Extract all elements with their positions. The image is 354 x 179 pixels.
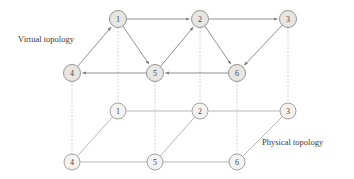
virtual-edge-v1-v5 (123, 26, 149, 64)
node-label-p1: 1 (116, 107, 120, 116)
virtual-edge-v4-v1 (78, 27, 112, 66)
topology-canvas: 123456 123456 Virtual topology Physical … (0, 0, 354, 179)
node-label-p6: 6 (235, 158, 239, 167)
virtual-node-group: 123456 (64, 11, 297, 82)
node-label-v5: 5 (153, 69, 157, 78)
virtual-edge-v5-v2 (160, 27, 193, 66)
node-label-p3: 3 (286, 107, 290, 116)
layer-link-group (72, 28, 288, 155)
node-label-v1: 1 (116, 15, 120, 24)
node-label-v4: 4 (70, 69, 74, 78)
virtual-edge-v3-v6 (244, 25, 282, 65)
node-label-p2: 2 (198, 107, 202, 116)
node-label-v2: 2 (198, 15, 202, 24)
virtual-edge-group (78, 19, 283, 73)
virtual-edge-v2-v6 (205, 26, 231, 64)
topology-figure: 123456 123456 Virtual topology Physical … (0, 0, 354, 179)
node-label-p4: 4 (70, 158, 74, 167)
node-label-v3: 3 (286, 15, 290, 24)
physical-edge-p4-p1 (77, 117, 112, 156)
node-label-p5: 5 (153, 158, 157, 167)
physical-edge-p5-p2 (160, 117, 194, 156)
physical-edge-group (77, 111, 282, 162)
physical-topology-label: Physical topology (262, 137, 324, 147)
virtual-topology-label: Virtual topology (18, 34, 75, 44)
node-label-v6: 6 (235, 69, 239, 78)
